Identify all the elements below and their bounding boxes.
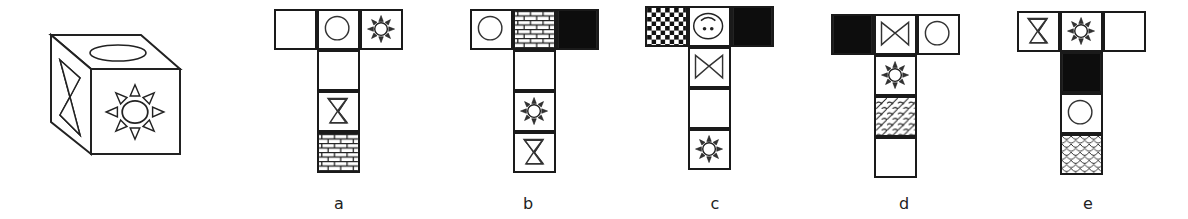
net-face-hourglass [317, 91, 360, 132]
hourglass-icon [1019, 13, 1058, 50]
hourglass-icon [319, 93, 358, 130]
net-face-hourglass [513, 132, 556, 173]
black-icon [833, 16, 872, 53]
cube-icon [45, 30, 185, 160]
sun-icon [1062, 13, 1101, 50]
net-face-bowtie [688, 47, 731, 88]
net-face-blank [874, 137, 917, 178]
net-face-checker [645, 6, 688, 47]
reference-cube [45, 30, 185, 160]
checker-icon [647, 8, 686, 45]
blank-icon [276, 11, 315, 48]
net-face-blank [274, 9, 317, 50]
net-face-black [556, 9, 599, 50]
black-icon [733, 8, 772, 45]
net-face-bowtie [874, 14, 917, 55]
option-label-a[interactable]: a [329, 194, 349, 213]
net-face-sun [1060, 11, 1103, 52]
blank-icon [515, 52, 554, 89]
option-label-d[interactable]: d [894, 194, 914, 213]
net-face-sun [360, 9, 403, 50]
blank-icon [1105, 13, 1144, 50]
net-face-blank [688, 88, 731, 129]
blank-icon [690, 90, 729, 127]
option-label-c[interactable]: c [705, 194, 725, 213]
sun-icon [876, 57, 915, 94]
sun-icon [515, 93, 554, 130]
black-icon [558, 11, 597, 48]
circle-icon [919, 16, 958, 53]
blank-icon [319, 52, 358, 89]
net-face-circle [1060, 93, 1103, 134]
circle-icon [1062, 95, 1101, 132]
net-face-brick [317, 132, 360, 173]
option-label-e[interactable]: e [1078, 194, 1098, 213]
net-face-black [1060, 52, 1103, 93]
net-face-blank [1103, 11, 1146, 52]
net-face-weave [874, 96, 917, 137]
face-oval-icon [690, 8, 729, 45]
net-face-sun [513, 91, 556, 132]
net-face-blank [317, 50, 360, 91]
net-face-circle [317, 9, 360, 50]
net-face-sun [688, 129, 731, 170]
blank-icon [876, 139, 915, 176]
sun-icon [362, 11, 401, 48]
bowtie-icon [876, 16, 915, 53]
circle-icon [319, 11, 358, 48]
option-label-b[interactable]: b [518, 194, 538, 213]
net-face-circle [470, 9, 513, 50]
net-face-blank [513, 50, 556, 91]
scallop-icon [1062, 136, 1101, 173]
net-face-face-oval [688, 6, 731, 47]
sun-icon [690, 131, 729, 168]
weave-icon [876, 98, 915, 135]
net-face-sun [874, 55, 917, 96]
brick-icon [515, 11, 554, 48]
net-face-brick [513, 9, 556, 50]
net-face-hourglass [1017, 11, 1060, 52]
net-face-black [731, 6, 774, 47]
circle-icon [472, 11, 511, 48]
hourglass-icon [515, 134, 554, 171]
black-icon [1062, 54, 1101, 91]
brick-icon [319, 134, 358, 171]
net-face-scallop [1060, 134, 1103, 175]
net-face-black [831, 14, 874, 55]
bowtie-icon [690, 49, 729, 86]
net-face-circle [917, 14, 960, 55]
